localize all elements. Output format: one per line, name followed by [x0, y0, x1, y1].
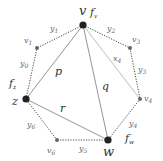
edge-y1 — [37, 25, 83, 48]
label-q: q — [102, 80, 109, 93]
edge-r — [26, 99, 108, 140]
edge-y4 — [108, 99, 140, 140]
graph-diagram: v z w fv fz fw v1 v3 v4 v6 y1 y2 y3 y4 y… — [0, 0, 163, 161]
node-v6 — [55, 138, 59, 142]
label-x4: x4 — [113, 54, 122, 64]
label-fv: fv — [89, 6, 98, 19]
label-y0: y0 — [19, 59, 29, 69]
label-fw: fw — [124, 132, 135, 145]
label-y6: y6 — [26, 120, 36, 130]
label-r: r — [60, 102, 66, 115]
label-fz: fz — [8, 77, 17, 90]
label-z: z — [11, 95, 18, 108]
label-v: v — [79, 3, 87, 18]
label-y3: y3 — [137, 65, 147, 75]
label-y4: y4 — [128, 119, 138, 129]
label-p: p — [55, 65, 62, 78]
label-y2: y2 — [106, 24, 116, 34]
label-v3: v3 — [132, 35, 141, 45]
node-v4 — [138, 97, 142, 101]
label-v4: v4 — [144, 94, 153, 104]
label-v6: v6 — [47, 146, 56, 156]
label-y5: y5 — [78, 144, 88, 154]
label-w: w — [103, 144, 114, 159]
node-v — [79, 21, 86, 28]
node-v1 — [35, 46, 39, 50]
edge-p — [26, 25, 83, 99]
node-z — [22, 95, 29, 102]
node-v3 — [128, 46, 132, 50]
label-y1: y1 — [49, 24, 58, 34]
label-v1: v1 — [24, 36, 32, 46]
node-w — [104, 136, 111, 143]
